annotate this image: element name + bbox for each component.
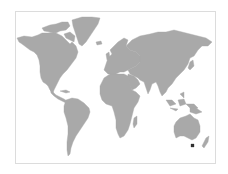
arctic-islands: [42, 22, 70, 33]
world-map: [0, 0, 228, 174]
new-zealand: [202, 136, 209, 148]
iceland: [96, 41, 102, 45]
australia: [174, 114, 200, 140]
greenland: [72, 17, 100, 46]
caribbean: [60, 90, 70, 93]
asia: [126, 30, 212, 96]
south-america: [64, 98, 90, 156]
madagascar: [133, 116, 137, 128]
new-guinea: [190, 108, 202, 114]
north-america: [17, 32, 78, 93]
tasmania-highlight[interactable]: [191, 144, 194, 147]
